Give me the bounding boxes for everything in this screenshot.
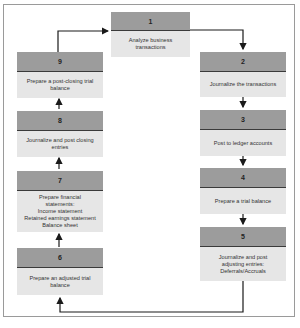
step-number: 6	[17, 248, 103, 268]
step-text: Journalize and post closing entries	[17, 131, 103, 157]
step-8: 8 Journalize and post closing entries	[17, 111, 103, 157]
step-5: 5 Journalize and post adjusting entries:…	[200, 227, 286, 281]
step-text: Journalize the transactions	[200, 72, 286, 97]
step-number: 3	[200, 110, 286, 130]
step-text-line: Prepare financial	[39, 194, 81, 201]
step-text: Prepare financial statements: Income sta…	[17, 191, 103, 232]
step-text: Prepare an adjusted trial balance	[17, 268, 103, 295]
step-number: 5	[200, 227, 286, 247]
step-9: 9 Prepare a post-closing trial balance	[17, 52, 103, 98]
step-text-line: adjusting entries:	[222, 261, 264, 268]
step-number: 2	[200, 52, 286, 72]
step-number: 4	[200, 168, 286, 188]
step-1: 1 Analyze business transactions	[111, 12, 190, 57]
step-6: 6 Prepare an adjusted trial balance	[17, 248, 103, 295]
step-text: Post to ledger accounts	[200, 130, 286, 156]
step-text-line: Journalize and post	[219, 254, 268, 261]
step-number: 9	[17, 52, 103, 72]
step-text-line: Retained earnings statement	[24, 215, 96, 222]
step-number: 1	[111, 12, 190, 31]
step-text-line: statements:	[46, 201, 75, 208]
step-text-line: Income statement	[38, 208, 82, 215]
step-4: 4 Prepare a trial balance	[200, 168, 286, 214]
arrow-9-to-1	[58, 31, 108, 52]
step-number: 8	[17, 111, 103, 131]
step-3: 3 Post to ledger accounts	[200, 110, 286, 156]
step-text: Journalize and post adjusting entries: D…	[200, 247, 286, 281]
step-2: 2 Journalize the transactions	[200, 52, 286, 97]
step-number: 7	[17, 171, 103, 191]
step-text-line: Balance sheet	[42, 222, 77, 229]
step-text-line: Deferrals/Accruals	[220, 268, 266, 275]
step-text: Prepare a post-closing trial balance	[17, 72, 103, 98]
step-text: Prepare a trial balance	[200, 188, 286, 214]
step-7: 7 Prepare financial statements: Income s…	[17, 171, 103, 232]
step-text: Analyze business transactions	[111, 31, 190, 57]
arrow-1-to-2	[190, 30, 243, 49]
